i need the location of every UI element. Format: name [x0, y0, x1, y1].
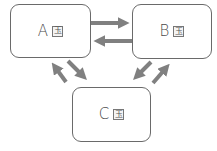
node-b-glyph-icon: 玉 [173, 26, 184, 37]
node-a-glyph-icon: 玉 [52, 26, 63, 37]
arrow-b-to-c [137, 62, 151, 76]
arrow-a-to-c [68, 61, 83, 76]
arrow-c-to-b [153, 68, 166, 83]
node-c-label: C [99, 107, 109, 122]
node-b: B 玉 [132, 4, 212, 59]
node-c-glyph-icon: 玉 [113, 109, 124, 120]
arrow-c-to-a [55, 67, 66, 82]
node-c: C 玉 [72, 87, 151, 142]
node-a-label: A [38, 24, 48, 39]
node-b-label: B [160, 24, 170, 39]
node-a: A 玉 [10, 4, 91, 58]
